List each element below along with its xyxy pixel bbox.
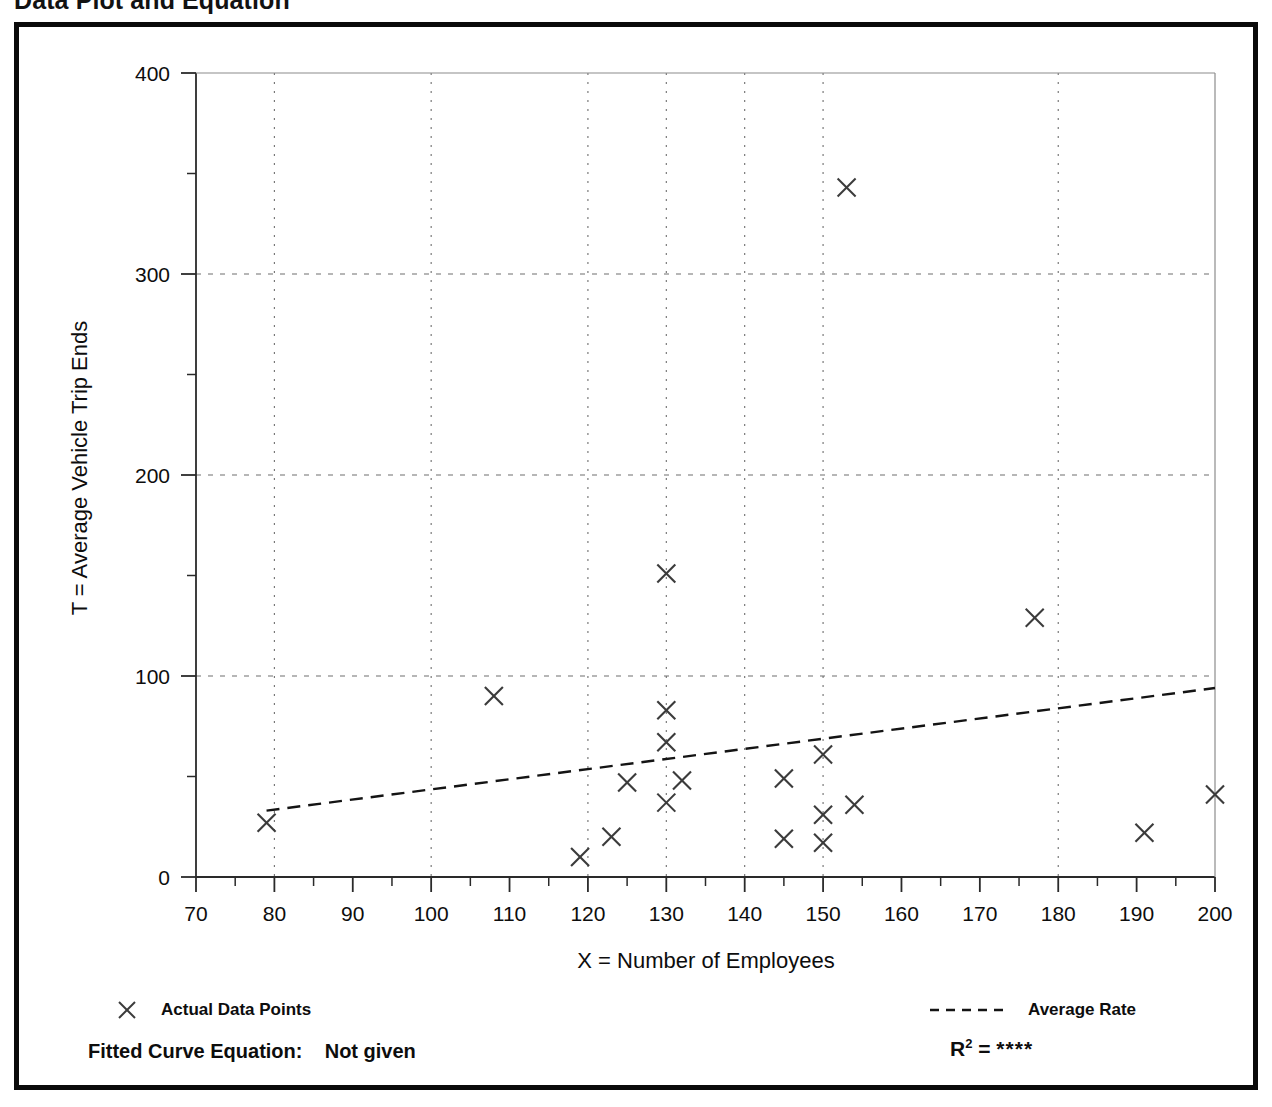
x-axis-title: X = Number of Employees bbox=[196, 948, 1216, 974]
x-tick-label: 200 bbox=[1197, 902, 1232, 925]
fitted-curve-equation: Fitted Curve Equation: Not given bbox=[88, 1040, 416, 1063]
x-tick-label: 100 bbox=[414, 902, 449, 925]
x-tick-label: 190 bbox=[1119, 902, 1154, 925]
data-point-marker bbox=[1026, 609, 1044, 627]
x-tick-label: 160 bbox=[884, 902, 919, 925]
data-point-marker bbox=[485, 687, 503, 705]
data-points-group bbox=[258, 179, 1224, 866]
x-tick-label: 90 bbox=[341, 902, 364, 925]
x-tick-label: 170 bbox=[962, 902, 997, 925]
data-point-marker bbox=[258, 814, 276, 832]
data-point-marker bbox=[775, 770, 793, 788]
x-tick-label: 130 bbox=[649, 902, 684, 925]
data-point-marker bbox=[1135, 824, 1153, 842]
dashed-line-icon bbox=[928, 1004, 1006, 1016]
data-point-marker bbox=[814, 834, 832, 852]
r-squared-exponent: 2 bbox=[965, 1036, 972, 1051]
data-point-marker bbox=[775, 830, 793, 848]
y-axis-title: T = Average Vehicle Trip Ends bbox=[67, 258, 93, 678]
plot-area: 7080901001101201301401501601701801902000… bbox=[0, 0, 1272, 1107]
fitted-curve-equation-value: Not given bbox=[325, 1040, 416, 1062]
fitted-curve-equation-label: Fitted Curve Equation: bbox=[88, 1040, 302, 1062]
y-tick-label: 0 bbox=[158, 866, 170, 889]
x-tick-label: 180 bbox=[1041, 902, 1076, 925]
x-tick-label: 150 bbox=[806, 902, 841, 925]
gridlines-group bbox=[196, 73, 1215, 877]
r-squared-value: **** bbox=[996, 1037, 1033, 1060]
x-marker-icon bbox=[115, 998, 141, 1024]
data-point-marker bbox=[838, 179, 856, 197]
x-tick-label: 140 bbox=[727, 902, 762, 925]
data-point-marker bbox=[618, 774, 636, 792]
y-tick-label: 200 bbox=[135, 464, 170, 487]
average-rate-line bbox=[267, 688, 1215, 811]
x-tick-label: 110 bbox=[493, 902, 526, 925]
y-tick-label: 100 bbox=[135, 665, 170, 688]
r-squared-label: R bbox=[950, 1037, 965, 1060]
x-tick-label: 120 bbox=[570, 902, 605, 925]
tick-labels-group: 7080901001101201301401501601701801902000… bbox=[135, 62, 1233, 925]
scatter-plot-svg: 7080901001101201301401501601701801902000… bbox=[0, 0, 1272, 1107]
data-point-marker bbox=[571, 848, 589, 866]
legend-average-rate-label: Average Rate bbox=[1028, 1000, 1136, 1020]
data-point-marker bbox=[602, 828, 620, 846]
chart-page: Data Plot and Equation 70809010011012013… bbox=[0, 0, 1272, 1107]
y-tick-label: 400 bbox=[135, 62, 170, 85]
y-tick-label: 300 bbox=[135, 263, 170, 286]
legend-actual-data-points-label: Actual Data Points bbox=[161, 1000, 311, 1020]
data-point-marker bbox=[845, 796, 863, 814]
x-tick-label: 80 bbox=[263, 902, 286, 925]
data-point-marker bbox=[657, 794, 675, 812]
x-tick-label: 70 bbox=[184, 902, 207, 925]
data-point-marker bbox=[673, 772, 691, 790]
data-point-marker bbox=[657, 564, 675, 582]
r-squared-block: R2 = **** bbox=[950, 1036, 1033, 1061]
average-rate-trend-line bbox=[267, 688, 1215, 811]
tick-marks-group bbox=[181, 73, 1215, 892]
r-squared-equals: = bbox=[978, 1037, 990, 1060]
